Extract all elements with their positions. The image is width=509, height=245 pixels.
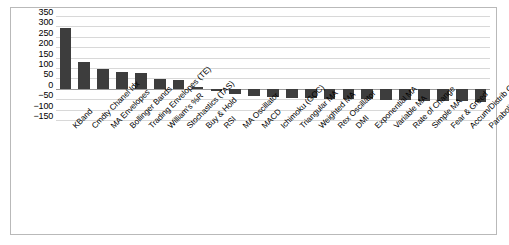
x-tick-label: Fear & Greed (449, 124, 455, 130)
bar (97, 69, 109, 89)
x-tick-label: Weighted MA (317, 124, 323, 130)
x-tick-label: Parabolic (PTPS) (487, 124, 493, 130)
y-tick-label: −50 (19, 91, 53, 100)
x-tick-label: RSI (222, 124, 228, 130)
x-tick-label: Exponential MA (373, 124, 379, 130)
x-tick-label: Ichimoku (GOC) (279, 124, 285, 130)
bar (60, 28, 72, 88)
gridline (56, 16, 490, 17)
y-tick-label: 300 (19, 18, 53, 27)
x-tick-label: Rate of Change (411, 124, 417, 130)
y-tick-label: 350 (19, 8, 53, 17)
x-tick-label: Buy & Hold (204, 124, 210, 130)
bar (78, 62, 90, 89)
x-tick-label: DMI (354, 124, 360, 130)
bar (380, 89, 392, 100)
x-tick-label: Triangular MA (298, 124, 304, 130)
x-tick-label: KBand (71, 124, 77, 130)
chart-plot-wrapper: 350300250200150100500−50−100−150 KBandCm… (11, 8, 498, 236)
y-tick-label: 100 (19, 60, 53, 69)
x-tick-label: Simple MA (430, 124, 436, 130)
x-tick-label: Cmdty Chanel Idx (90, 124, 96, 130)
x-tick-label: Stochastics (TAS) (185, 124, 191, 130)
x-tick-label: Variable MA (392, 124, 398, 130)
y-axis: 350300250200150100500−50−100−150 (19, 12, 53, 124)
x-tick-label: MA Oscillator (241, 124, 247, 130)
y-tick-label: 250 (19, 29, 53, 38)
gridline (56, 68, 490, 69)
y-tick-label: −150 (19, 112, 53, 121)
y-tick-label: −100 (19, 102, 53, 111)
x-tick-label: Rex Oscillator (336, 124, 342, 130)
gridline (56, 47, 490, 48)
chart-frame: 350300250200150100500−50−100−150 KBandCm… (10, 7, 497, 235)
x-tick-label: MACD (260, 124, 266, 130)
x-tick-label: Bollinger Bands (128, 124, 134, 130)
gridline (56, 37, 490, 38)
bar (286, 89, 298, 98)
x-tick-label: MA Envelopes (109, 124, 115, 130)
gridline (56, 58, 490, 59)
x-tick-label: Accum/Distrib Osc (468, 124, 474, 130)
y-tick-label: 200 (19, 39, 53, 48)
y-tick-label: 0 (19, 81, 53, 90)
gridline (56, 26, 490, 27)
x-axis: KBandCmdty Chanel IdxMA EnvelopesBolling… (56, 124, 496, 234)
y-tick-label: 150 (19, 50, 53, 59)
x-tick-label: William's %R (166, 124, 172, 130)
bar (248, 89, 260, 96)
y-tick-label: 50 (19, 70, 53, 79)
x-tick-label: Trading Envelopes (TE) (147, 124, 153, 130)
